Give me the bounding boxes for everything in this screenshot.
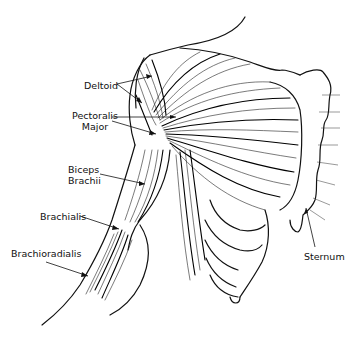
label-brachialis: Brachialis	[40, 211, 86, 222]
lateral-chest-fibers	[176, 150, 205, 280]
label-biceps-line1: Biceps	[68, 164, 101, 175]
label-pectoralis-line2: Major	[72, 121, 118, 132]
label-biceps-line2: Brachii	[68, 175, 101, 186]
label-pectoralis-major: Pectoralis Major	[72, 110, 118, 132]
anatomy-drawing	[0, 0, 355, 337]
label-sternum: Sternum	[304, 251, 345, 262]
label-biceps-brachii: Biceps Brachii	[68, 164, 101, 186]
forearm	[86, 225, 148, 315]
label-pectoralis-line1: Pectoralis	[72, 110, 118, 121]
label-deltoid: Deltoid	[84, 80, 118, 91]
sternum-outline	[290, 70, 331, 232]
label-brachioradialis: Brachioradialis	[11, 248, 81, 259]
rib-lines	[205, 200, 268, 303]
pectoralis-major-fibers	[152, 52, 302, 210]
clavicle	[180, 48, 300, 75]
deltoid-fibers	[136, 60, 166, 135]
